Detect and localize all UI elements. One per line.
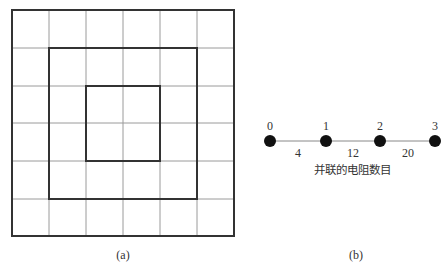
node-2 [374, 135, 386, 147]
node-label-2: 2 [377, 119, 383, 134]
axis-label: 并联的电阻数目 [314, 161, 391, 177]
edge-label-2: 20 [402, 146, 414, 161]
edge-label-0: 4 [295, 146, 301, 161]
caption-a: (a) [116, 248, 129, 263]
node-label-0: 0 [267, 119, 273, 134]
node-0 [264, 135, 276, 147]
caption-b: (b) [349, 248, 363, 263]
node-3 [429, 135, 441, 147]
node-1 [320, 135, 332, 147]
node-label-1: 1 [323, 119, 329, 134]
grid-lines [12, 10, 234, 236]
figure-canvas [0, 0, 447, 274]
node-label-3: 3 [432, 119, 438, 134]
edge-label-1: 12 [347, 146, 359, 161]
